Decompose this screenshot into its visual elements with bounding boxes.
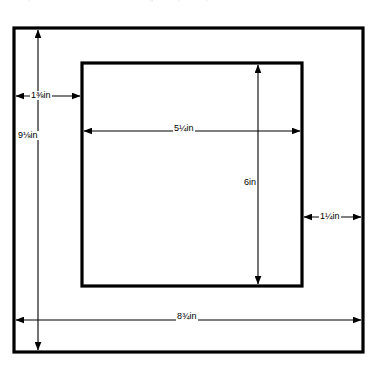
dimension-label-right-margin: 1¼in bbox=[319, 212, 341, 221]
dimension-label-opening-height: 6in bbox=[243, 178, 257, 187]
dimension-label-opening-width: 5¼in bbox=[173, 124, 195, 133]
dimension-label-outer-width: 8¾in bbox=[176, 312, 198, 321]
inner-opening-rect bbox=[82, 63, 302, 286]
outer-board-rect bbox=[14, 28, 363, 352]
dimension-label-left-margin: 1⅜in bbox=[30, 91, 52, 100]
dimension-label-outer-height: 9⅛in bbox=[17, 131, 39, 140]
